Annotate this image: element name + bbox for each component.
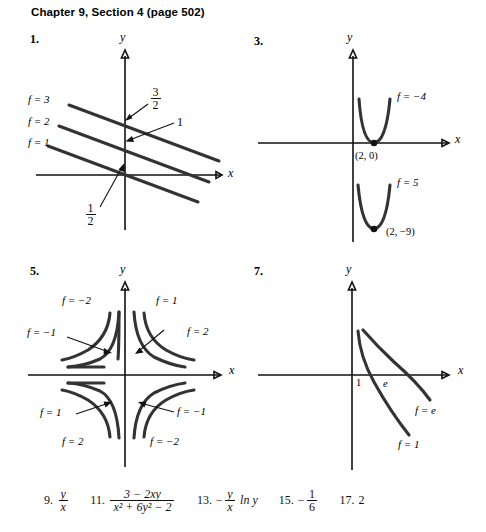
figure-5-curve-label-q3-outer: f = 2 (62, 435, 83, 447)
answer-13-number: 13. (197, 493, 212, 508)
figure-3-point-label-2-0: (2, 0) (355, 150, 378, 161)
answer-key-page: Chapter 9, Section 4 (page 502) 1. y x (0, 0, 486, 532)
figure-5-plot (22, 262, 250, 484)
answer-13-expression: − y x ln y (216, 488, 258, 513)
answer-9-fraction: y x (59, 488, 68, 513)
figure-5-curve-label-q4-inner: f = −1 (177, 405, 206, 417)
figure-1-plot (22, 30, 250, 245)
parabola-f-5 (358, 185, 390, 229)
decay-curve-f-e (363, 330, 430, 400)
figure-5-quadrant-3 (62, 383, 119, 438)
figure-5-curve-label-q4-outer: f = −2 (150, 435, 179, 447)
parabola-f-minus-4 (359, 99, 390, 143)
hyperbola-f-minus-1-q2 (62, 313, 110, 360)
answer-13-sign: − (216, 493, 223, 508)
figure-1: 1. y x (22, 30, 250, 245)
figure-1-annotation-one: 1 (177, 115, 183, 130)
answer-11-fraction: 3 − 2xy x² + 6y² − 2 (110, 488, 174, 513)
figure-5-quadrant-2 (62, 312, 119, 367)
figure-5-axes (28, 282, 221, 467)
answer-13-fraction: y x (225, 488, 234, 513)
vertex-dot-2-0 (371, 140, 378, 147)
answer-11-denominator: x² + 6y² − 2 (110, 500, 174, 513)
figure-3-point-label-2-minus-9: (2, −9) (386, 226, 415, 237)
figure-7-curve-label-f-1: f = 1 (398, 438, 419, 450)
hyperbola-f-minus-2-q2-tail (118, 312, 119, 359)
figure-3-axes (258, 50, 449, 242)
answer-item-17: 17. 2 (340, 493, 365, 508)
answer-17-number: 17. (340, 493, 355, 508)
figure-3-curve-label-f-minus-4: f = −4 (397, 90, 426, 102)
figure-7-tick-label-e: e (383, 378, 388, 389)
answer-9-denominator: x (59, 500, 68, 513)
answer-11-expression: 3 − 2xy x² + 6y² − 2 (109, 488, 176, 513)
vertex-dot-2-minus-9 (371, 226, 378, 233)
figure-3-curve-label-f-5: f = 5 (397, 176, 418, 188)
figure-7: 7. y x 1 e f = e f = 1 (252, 262, 484, 484)
figure-3-plot (252, 30, 480, 260)
figure-1-annotation-three-halves: 3 2 (151, 86, 161, 111)
answer-15-expression: − 1 6 (298, 488, 319, 513)
figure-1-curve-label-f1: f = 1 (28, 136, 49, 148)
hyperbola-f-1-q1 (134, 312, 185, 367)
answer-15-fraction: 1 6 (307, 488, 317, 513)
one-half-numerator: 1 (86, 202, 96, 214)
level-line-f1 (48, 146, 198, 202)
answer-item-13: 13. − y x ln y (197, 488, 258, 513)
figure-3: 3. y x f = −4 f = 5 (2, 0) (2, −9) (252, 30, 480, 260)
answer-17-expression: 2 (359, 493, 365, 508)
figure-7-plot (252, 262, 484, 484)
hyperbola-f-1-q3 (68, 383, 119, 438)
answer-15-number: 15. (279, 493, 294, 508)
figure-1-annotation-one-half: 1 2 (86, 202, 96, 227)
answer-list: 9. y x 11. 3 − 2xy x² + 6y² − 2 13. − (44, 488, 386, 513)
figure-5-curve-label-q1-outer: f = 2 (187, 325, 208, 337)
figure-1-level-lines (48, 105, 219, 202)
hyperbola-f-2-q3 (62, 390, 110, 437)
answer-9-numerator: y (59, 488, 68, 500)
answer-13-denominator: x (225, 500, 234, 513)
figure-7-curves (358, 330, 430, 435)
figure-1-curve-label-f3: f = 3 (28, 93, 49, 105)
figure-5: 5. y x (22, 262, 250, 484)
answer-11-number: 11. (90, 493, 105, 508)
answer-13-tail: ln y (240, 493, 258, 508)
page-title: Chapter 9, Section 4 (page 502) (31, 6, 205, 18)
figure-5-curve-label-q3-inner: f = 1 (40, 406, 61, 418)
figure-5-quadrant-1 (134, 312, 194, 367)
answer-15-numerator: 1 (307, 488, 317, 500)
answer-11-numerator: 3 − 2xy (121, 488, 164, 500)
one-half-denominator: 2 (86, 214, 96, 227)
figure-5-curve-label-q1-inner: f = 1 (156, 294, 177, 306)
figure-5-curve-label-q2-outer: f = −2 (62, 294, 91, 306)
answer-15-denominator: 6 (307, 500, 317, 513)
figure-3-parabolas (358, 99, 390, 229)
figure-7-axes (258, 282, 449, 470)
figure-7-curve-label-f-e: f = e (415, 404, 436, 416)
figure-5-curve-label-q2-inner: f = −1 (27, 326, 56, 338)
answer-item-9: 9. y x (44, 488, 69, 513)
answer-13-numerator: y (225, 488, 234, 500)
answer-9-expression: y x (57, 488, 69, 513)
hyperbola-f-minus-2-q2 (68, 312, 119, 367)
answer-15-sign: − (298, 493, 305, 508)
answer-item-11: 11. 3 − 2xy x² + 6y² − 2 (90, 488, 176, 513)
figure-7-tick-label-1: 1 (356, 377, 361, 388)
answer-9-number: 9. (44, 493, 53, 508)
level-line-f3 (69, 105, 219, 161)
level-line-f2 (59, 126, 209, 182)
figure-1-curve-label-f2: f = 2 (28, 115, 49, 127)
three-halves-numerator: 3 (151, 86, 161, 98)
answer-item-15: 15. − 1 6 (279, 488, 319, 513)
three-halves-denominator: 2 (151, 98, 161, 111)
